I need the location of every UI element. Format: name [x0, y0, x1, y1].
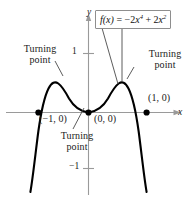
formula-plus: + 2: [145, 14, 158, 25]
leader-formula-a: [102, 28, 118, 84]
formula-fn-arg: (x): [103, 14, 114, 25]
formula-exp2: 2: [163, 13, 166, 20]
x-axis-label: x: [178, 108, 182, 118]
figure-polynomial-graph: f(x) = −2x4 + 2x2 Turning point Turning …: [0, 0, 194, 204]
leader-turning-bottom: [73, 108, 84, 129]
formula-equals: = −2: [116, 14, 135, 25]
annotation-turning-point-left-line1: Turning: [9, 44, 71, 55]
annotation-turning-point-left: Turning point: [9, 44, 71, 65]
point-label-origin: (0, 0): [94, 114, 116, 125]
annotation-turning-point-left-line2: point: [9, 55, 71, 66]
annotation-turning-point-right: Turning point: [137, 49, 193, 70]
annotation-turning-point-bottom: Turning point: [48, 131, 106, 152]
formula-callout: f(x) = −2x4 + 2x2: [95, 10, 171, 29]
point-label-one-zero: (1, 0): [148, 93, 170, 104]
formula-exp1: 4: [140, 13, 143, 20]
annotation-turning-point-right-line2: point: [137, 60, 193, 71]
y-axis: [86, 14, 91, 196]
y-axis-label: y: [87, 8, 91, 18]
annotation-turning-point-bottom-line2: point: [48, 142, 106, 153]
point-origin: [85, 109, 91, 115]
point-one-zero: [144, 109, 150, 115]
y-tick-label-1: 1: [72, 47, 77, 57]
leader-turning-right: [127, 67, 134, 79]
point-label-neg-one-zero: (−1, 0): [39, 114, 67, 125]
annotation-turning-point-right-line1: Turning: [137, 49, 193, 60]
y-tick-label-neg-1: −1: [69, 162, 79, 172]
annotation-turning-point-bottom-line1: Turning: [48, 131, 106, 142]
